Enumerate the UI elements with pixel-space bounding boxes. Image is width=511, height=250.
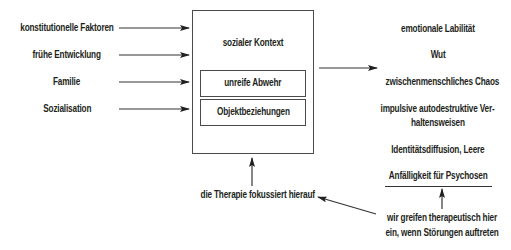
input-label-sozialisation: Sozialisation: [7, 103, 127, 115]
output-label-impulsive-line1: impulsive autodestruktive Ver-: [368, 103, 508, 115]
input-label-fruehe-entwicklung: frühe Entwicklung: [7, 49, 127, 61]
output-label-wut: Wut: [378, 49, 498, 61]
object-relations-label: Objektbeziehungen: [200, 106, 306, 118]
output-label-zwischenmenschliches-chaos: zwischenmenschliches Chaos: [373, 76, 503, 88]
output-label-emotionale-labilitaet: emotionale Labilität: [378, 23, 498, 35]
immature-defense-label: unreife Abwehr: [200, 77, 306, 89]
arrow-intervention-to-therapy: [318, 197, 376, 214]
output-label-impulsive-line2: haltensweisen: [378, 117, 498, 129]
outputs-underline-divider: [385, 186, 492, 187]
therapy-focus-note: die Therapie fokussiert hierauf: [188, 189, 318, 201]
output-label-anfaelligkeit-psychosen: Anfälligkeit für Psychosen: [378, 170, 498, 182]
output-label-identitaetsdiffusion: Identitätsdiffusion, Leere: [378, 144, 498, 156]
input-label-familie: Familie: [7, 76, 127, 88]
intervention-note-line2: ein, wenn Störungen auftreten: [373, 227, 511, 239]
input-label-konstitutionelle-faktoren: konstitutionelle Faktoren: [7, 22, 127, 34]
intervention-note-line1: wir greifen therapeutisch hier: [373, 212, 511, 224]
social-context-title: sozialer Kontext: [192, 37, 314, 49]
